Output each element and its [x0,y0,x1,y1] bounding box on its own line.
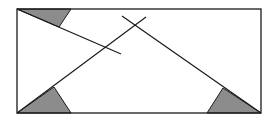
line-bottom-right-diagonal [122,16,261,113]
shaded-triangle-top-left [17,9,71,27]
shaded-triangle-bottom-right [207,88,261,113]
line-bottom-left-diagonal [17,17,146,113]
geometry-diagram [0,0,275,121]
shaded-triangle-bottom-left [17,87,71,113]
